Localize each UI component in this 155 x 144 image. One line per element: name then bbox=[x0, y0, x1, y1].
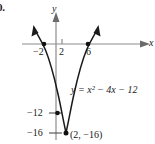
y-intercept-neg12-point bbox=[55, 111, 60, 116]
y-tick-label-neg12: −12 bbox=[27, 108, 43, 118]
vertex-coordinate-label: (2, −16) bbox=[70, 130, 102, 140]
x-tick-label-2: 2 bbox=[59, 47, 64, 57]
graph-canvas bbox=[0, 0, 155, 144]
x-tick-label-6: 6 bbox=[86, 47, 91, 57]
parabola-figure: 0. y x −2 2 6 −12 −16 y = x² − 4x − 12 (… bbox=[0, 0, 155, 144]
problem-number: 0. bbox=[0, 2, 5, 13]
equation-label: y = x² − 4x − 12 bbox=[71, 85, 138, 95]
x-tick-label-neg2: −2 bbox=[33, 47, 44, 57]
y-axis-label: y bbox=[52, 4, 56, 14]
x-axis-label: x bbox=[149, 38, 153, 48]
y-tick-label-neg16: −16 bbox=[27, 128, 43, 138]
vertex-point bbox=[64, 131, 69, 136]
